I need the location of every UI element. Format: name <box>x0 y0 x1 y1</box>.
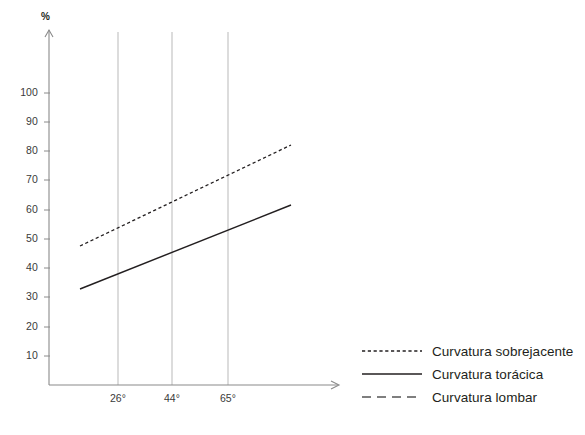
y-tick-label: 10 <box>8 349 38 361</box>
legend-label: Curvatura sobrejacente <box>432 344 573 359</box>
cropped-footer-text <box>22 425 262 432</box>
y-axis <box>45 30 53 385</box>
y-tick-label: 70 <box>8 173 38 185</box>
legend-item-curvatura-sobrejacente: Curvatura sobrejacente <box>362 341 573 361</box>
legend-swatch-dashed-icon <box>362 391 422 403</box>
gridlines <box>118 32 228 385</box>
legend-label: Curvatura lombar <box>432 390 537 405</box>
x-tick-label: 65° <box>208 392 248 404</box>
series-line-solid <box>80 205 291 289</box>
y-tick-label: 30 <box>8 290 38 302</box>
legend-swatch-solid-icon <box>362 368 422 380</box>
legend-label: Curvatura torácica <box>432 367 543 382</box>
chart-container: % <box>0 0 585 435</box>
series-curvatura-sobrejacente <box>80 145 291 246</box>
series-line-dotted <box>80 145 291 246</box>
y-tick-label: 60 <box>8 203 38 215</box>
x-axis <box>49 381 339 389</box>
y-tick-label: 50 <box>8 232 38 244</box>
chart-legend: Curvatura sobrejacente Curvatura torácic… <box>362 341 573 407</box>
x-tick-label: 44° <box>152 392 192 404</box>
legend-item-curvatura-lombar: Curvatura lombar <box>362 387 573 407</box>
y-tick-label: 40 <box>8 261 38 273</box>
legend-item-curvatura-toracica: Curvatura torácica <box>362 364 573 384</box>
y-tick-label: 100 <box>8 86 38 98</box>
y-tick-label: 80 <box>8 144 38 156</box>
series-curvatura-toracica <box>80 205 291 289</box>
y-tick-label: 20 <box>8 320 38 332</box>
y-tick-label: 90 <box>8 115 38 127</box>
x-tick-label: 26° <box>98 392 138 404</box>
legend-swatch-dotted-icon <box>362 345 422 357</box>
